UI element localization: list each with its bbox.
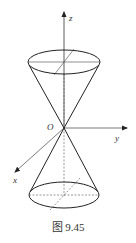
- z-axis-label: z: [68, 13, 73, 23]
- figure-caption: 图 9.45: [52, 221, 86, 233]
- origin-label: O: [47, 122, 54, 132]
- x-axis: [15, 128, 64, 172]
- y-axis-label: y: [114, 133, 119, 143]
- x-axis-label: x: [12, 175, 17, 185]
- double-cone-diagram: z O y x 图 9.45: [0, 0, 136, 243]
- upper-cone-right-edge: [64, 65, 99, 128]
- upper-cone-left-edge: [29, 65, 64, 128]
